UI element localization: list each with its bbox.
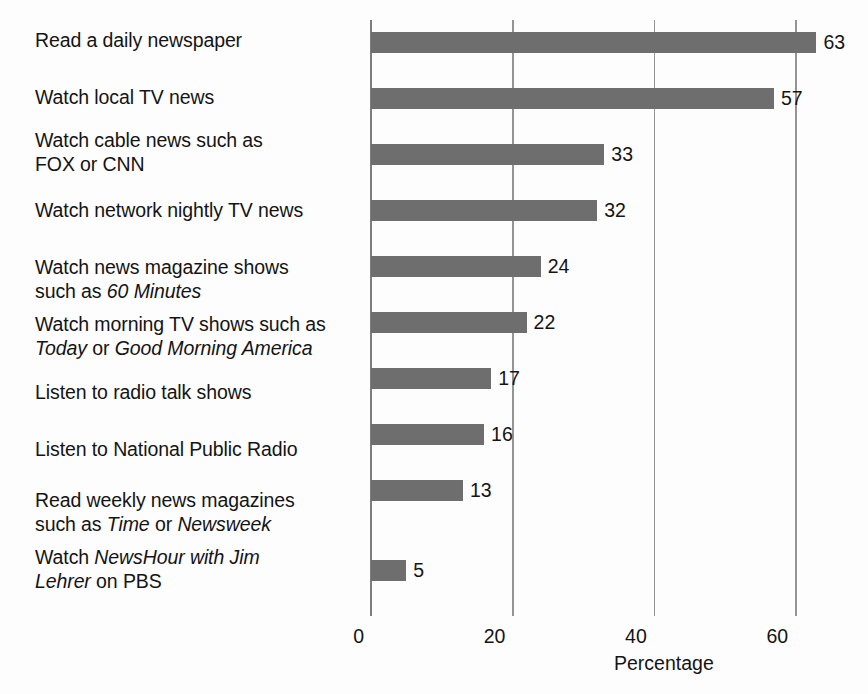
- category-label-watch-news-magazine-shows: Watch news magazine showssuch as 60 Minu…: [35, 255, 365, 303]
- category-label-read-weekly-news-magazines: Read weekly news magazinessuch as Time o…: [35, 488, 365, 536]
- bar-read-daily-newspaper: [371, 32, 816, 53]
- label-text-run: Watch local TV news: [35, 86, 214, 108]
- label-text-run: Watch: [35, 546, 94, 568]
- category-label-watch-network-nightly-tv-news: Watch network nightly TV news: [35, 198, 365, 222]
- label-text-run: or: [150, 513, 178, 535]
- label-text-run: Listen to National Public Radio: [35, 438, 297, 460]
- bar-read-weekly-news-magazines: [371, 480, 463, 501]
- label-text-run: Watch network nightly TV news: [35, 199, 303, 221]
- bar-value-watch-cable-news: 33: [611, 144, 633, 165]
- x-axis-title: Percentage: [614, 652, 714, 675]
- bar-listen-radio-talk-shows: [371, 368, 491, 389]
- label-text-run: Today: [35, 337, 87, 359]
- gridline-40: [654, 20, 656, 616]
- label-text-run: NewsHour with Jim: [94, 546, 259, 568]
- category-label-watch-cable-news: Watch cable news such asFOX or CNN: [35, 128, 365, 176]
- bar-value-watch-news-magazine-shows: 24: [548, 256, 570, 277]
- bar-watch-news-magazine-shows: [371, 256, 541, 277]
- bar-value-read-weekly-news-magazines: 13: [470, 480, 492, 501]
- label-text-run: Lehrer: [35, 570, 91, 592]
- bar-value-listen-radio-talk-shows: 17: [498, 368, 520, 389]
- bar-watch-network-nightly-tv-news: [371, 200, 597, 221]
- label-text-run: Time: [107, 513, 150, 535]
- label-text-run: Read a daily newspaper: [35, 29, 242, 51]
- category-label-watch-local-tv-news: Watch local TV news: [35, 85, 365, 109]
- x-tick-label-20: 20: [484, 625, 513, 648]
- plot-area: 6357333224221716135 0204060: [371, 20, 795, 616]
- bar-watch-newshour-pbs: [371, 560, 406, 581]
- category-label-watch-newshour-pbs: Watch NewsHour with JimLehrer on PBS: [35, 545, 365, 593]
- category-label-watch-morning-tv-shows: Watch morning TV shows such asToday or G…: [35, 312, 365, 360]
- label-text-run: Watch news magazine shows: [35, 256, 289, 278]
- bar-value-watch-newshour-pbs: 5: [413, 560, 424, 581]
- gridline-60: [795, 20, 797, 616]
- bar-value-watch-morning-tv-shows: 22: [534, 312, 556, 333]
- label-text-run: such as: [35, 280, 107, 302]
- label-text-run: FOX or CNN: [35, 153, 145, 175]
- x-tick-label-40: 40: [625, 625, 654, 648]
- bar-watch-cable-news: [371, 144, 604, 165]
- bar-value-watch-network-nightly-tv-news: 32: [604, 200, 626, 221]
- label-text-run: 60 Minutes: [107, 280, 201, 302]
- category-label-listen-national-public-radio: Listen to National Public Radio: [35, 437, 365, 461]
- bar-watch-local-tv-news: [371, 88, 774, 109]
- label-text-run: Read weekly news magazines: [35, 489, 295, 511]
- bar-listen-national-public-radio: [371, 424, 484, 445]
- label-text-run: on PBS: [91, 570, 162, 592]
- bar-value-listen-national-public-radio: 16: [491, 424, 513, 445]
- bar-value-read-daily-newspaper: 63: [823, 32, 845, 53]
- bar-value-watch-local-tv-news: 57: [781, 88, 803, 109]
- label-text-run: Listen to radio talk shows: [35, 381, 251, 403]
- x-tick-label-60: 60: [766, 625, 795, 648]
- label-text-run: Watch cable news such as: [35, 129, 263, 151]
- label-text-run: Watch morning TV shows such as: [35, 313, 326, 335]
- label-text-run: Newsweek: [177, 513, 270, 535]
- bar-chart: Read a daily newspaperWatch local TV new…: [0, 0, 868, 694]
- label-text-run: Good Morning America: [115, 337, 313, 359]
- label-text-run: or: [87, 337, 115, 359]
- category-label-read-daily-newspaper: Read a daily newspaper: [35, 28, 365, 52]
- x-tick-label-0: 0: [353, 625, 371, 648]
- category-label-listen-radio-talk-shows: Listen to radio talk shows: [35, 380, 365, 404]
- bar-watch-morning-tv-shows: [371, 312, 527, 333]
- label-text-run: such as: [35, 513, 107, 535]
